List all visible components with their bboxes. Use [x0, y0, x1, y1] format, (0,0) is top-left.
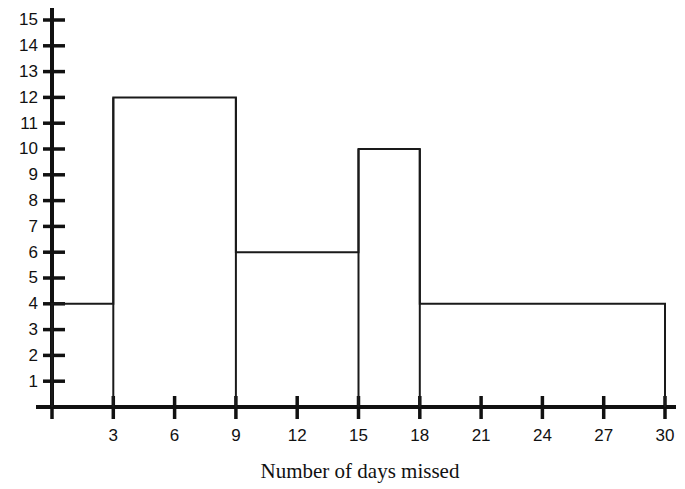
x-tick-label: 24 — [533, 426, 552, 445]
y-tick-label: 13 — [19, 62, 38, 81]
x-tick-label: 3 — [109, 426, 118, 445]
histogram-chart: 123456789101112131415 36912151821242730 … — [0, 0, 685, 489]
y-tick-label: 6 — [29, 243, 38, 262]
y-tick-label: 4 — [29, 294, 38, 313]
y-tick-label: 14 — [19, 36, 38, 55]
histogram-svg: 123456789101112131415 36912151821242730 … — [0, 0, 685, 489]
y-tick-label: 1 — [29, 372, 38, 391]
y-tick-label: 3 — [29, 320, 38, 339]
x-tick-label: 12 — [288, 426, 307, 445]
x-tick-label: 9 — [231, 426, 240, 445]
y-tick-label: 15 — [19, 10, 38, 29]
x-axis-title: Number of days missed — [261, 459, 460, 483]
x-tick-label: 6 — [170, 426, 179, 445]
y-tick-label: 7 — [29, 217, 38, 236]
y-tick-label: 11 — [20, 114, 38, 133]
x-tick-label: 15 — [349, 426, 368, 445]
x-tick-label: 18 — [410, 426, 429, 445]
x-tick-label: 30 — [656, 426, 675, 445]
y-tick-label: 2 — [29, 346, 38, 365]
y-tick-label: 9 — [29, 165, 38, 184]
y-tick-label: 12 — [19, 88, 38, 107]
y-tick-label: 8 — [29, 191, 38, 210]
x-tick-label: 27 — [594, 426, 613, 445]
y-tick-label: 5 — [29, 268, 38, 287]
y-tick-label: 10 — [19, 139, 38, 158]
chart-background — [0, 0, 685, 489]
x-tick-label: 21 — [472, 426, 491, 445]
